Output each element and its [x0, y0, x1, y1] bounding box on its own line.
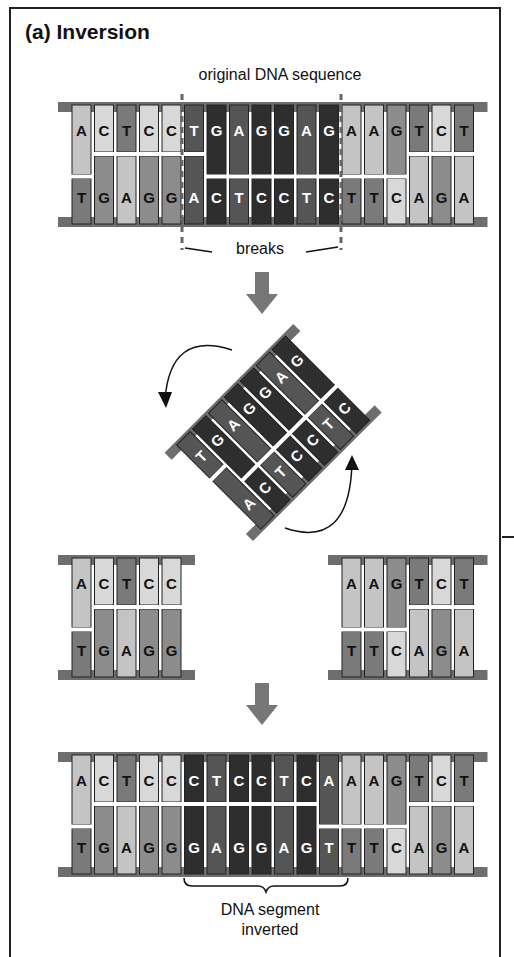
base-top: T [459, 772, 468, 789]
base-top: C [301, 772, 312, 789]
base-top: T [189, 122, 198, 139]
base-bottom: G [301, 839, 313, 856]
base-top: T [122, 772, 131, 789]
base-bottom: T [369, 642, 378, 659]
base-top: A [301, 122, 312, 139]
base-top: C [436, 772, 447, 789]
base-top: A [369, 122, 380, 139]
base-bottom: A [459, 642, 470, 659]
base-bottom: A [279, 839, 290, 856]
base-top: T [459, 575, 468, 592]
base-bottom: A [414, 189, 425, 206]
base-top: T [414, 772, 423, 789]
base-bottom: C [391, 642, 402, 659]
base-top: A [369, 772, 380, 789]
left-dna-piece: ATCGTACGCG [58, 555, 195, 680]
base-bottom: T [347, 839, 356, 856]
base-bottom: T [324, 839, 333, 856]
inverted-label-line1: DNA segment [170, 900, 370, 920]
base-bottom: C [391, 839, 402, 856]
base-top: T [122, 575, 131, 592]
base-top: C [436, 575, 447, 592]
base-top: C [189, 772, 200, 789]
base-top: A [369, 575, 380, 592]
base-bottom: G [143, 189, 155, 206]
base-bottom: A [189, 189, 200, 206]
base-top: T [279, 772, 288, 789]
base-bottom: T [347, 642, 356, 659]
base-bottom: G [143, 642, 155, 659]
base-top: C [256, 772, 267, 789]
base-top: T [122, 122, 131, 139]
base-bottom: G [436, 189, 448, 206]
base-top: G [323, 122, 335, 139]
down-arrow-icon [246, 683, 278, 725]
base-top: C [166, 772, 177, 789]
base-top: C [144, 772, 155, 789]
base-top: G [391, 122, 403, 139]
base-bottom: A [459, 189, 470, 206]
base-top: T [414, 575, 423, 592]
base-top: T [459, 122, 468, 139]
base-bottom: G [436, 839, 448, 856]
base-top: G [391, 772, 403, 789]
base-bottom: A [121, 189, 132, 206]
base-top: G [211, 122, 223, 139]
base-bottom: T [77, 189, 86, 206]
base-bottom: G [166, 189, 178, 206]
base-bottom: A [459, 839, 470, 856]
base-top: C [144, 575, 155, 592]
base-top: A [346, 772, 357, 789]
breaks-label: breaks [215, 240, 305, 258]
base-bottom: C [391, 189, 402, 206]
base-bottom: A [414, 642, 425, 659]
base-top: C [99, 772, 110, 789]
base-bottom: T [234, 189, 243, 206]
base-bottom: G [166, 642, 178, 659]
base-top: A [76, 575, 87, 592]
base-top: C [99, 122, 110, 139]
inverted-label-line2: inverted [170, 920, 370, 940]
base-bottom: T [77, 839, 86, 856]
base-bottom: C [256, 189, 267, 206]
base-top: C [99, 575, 110, 592]
base-bottom: T [369, 189, 378, 206]
down-arrow-icon [246, 272, 278, 314]
rotated-segment: TAGCATGCGCATGC [165, 324, 382, 541]
base-top: G [256, 122, 268, 139]
rotation-arrow-icon [165, 346, 232, 400]
base-bottom: C [279, 189, 290, 206]
base-bottom: G [436, 642, 448, 659]
base-top: C [166, 122, 177, 139]
base-bottom: C [324, 189, 335, 206]
base-bottom: T [302, 189, 311, 206]
base-bottom: A [121, 839, 132, 856]
right-dna-piece: ATATGCTACGTA [328, 555, 488, 680]
base-top: G [391, 575, 403, 592]
base-top: T [414, 122, 423, 139]
inverted-segment-label: DNA segment inverted [170, 900, 370, 940]
base-bottom: C [211, 189, 222, 206]
base-top: C [144, 122, 155, 139]
original-dna-strand: ATCGTACGCGTAGCATGCGCATGCATATGCTACGTA [58, 102, 488, 227]
base-top: C [436, 122, 447, 139]
base-top: C [234, 772, 245, 789]
base-bottom: G [98, 642, 110, 659]
base-top: A [324, 772, 335, 789]
base-top: T [212, 772, 221, 789]
base-top: A [234, 122, 245, 139]
base-top: A [76, 772, 87, 789]
base-top: A [76, 122, 87, 139]
base-bottom: G [256, 839, 268, 856]
base-bottom: T [77, 642, 86, 659]
base-top: C [166, 575, 177, 592]
base-bottom: A [211, 839, 222, 856]
base-bottom: G [166, 839, 178, 856]
base-top: A [346, 122, 357, 139]
base-bottom: A [121, 642, 132, 659]
base-bottom: G [98, 189, 110, 206]
base-bottom: G [143, 839, 155, 856]
base-bottom: T [347, 189, 356, 206]
base-bottom: G [188, 839, 200, 856]
